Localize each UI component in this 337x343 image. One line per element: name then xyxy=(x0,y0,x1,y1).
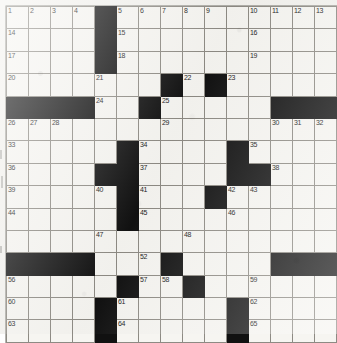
crossword-cell[interactable] xyxy=(249,208,271,230)
crossword-cell[interactable] xyxy=(205,320,227,342)
crossword-cell[interactable] xyxy=(227,275,249,297)
crossword-cell[interactable] xyxy=(271,29,293,51)
crossword-cell[interactable] xyxy=(293,186,315,208)
crossword-cell[interactable] xyxy=(293,298,315,320)
crossword-cell[interactable] xyxy=(249,74,271,96)
crossword-cell[interactable] xyxy=(51,29,73,51)
crossword-cell[interactable] xyxy=(73,141,95,163)
crossword-cell[interactable] xyxy=(205,275,227,297)
crossword-cell[interactable]: 52 xyxy=(139,253,161,275)
crossword-cell[interactable] xyxy=(29,74,51,96)
crossword-cell[interactable]: 26 xyxy=(7,118,29,140)
crossword-cell[interactable] xyxy=(183,118,205,140)
crossword-cell[interactable] xyxy=(73,163,95,185)
crossword-cell[interactable] xyxy=(73,29,95,51)
crossword-cell[interactable] xyxy=(51,74,73,96)
crossword-cell[interactable]: 22 xyxy=(183,74,205,96)
crossword-cell[interactable] xyxy=(29,298,51,320)
crossword-cell[interactable] xyxy=(51,298,73,320)
crossword-cell[interactable] xyxy=(73,186,95,208)
crossword-cell[interactable] xyxy=(161,141,183,163)
crossword-cell[interactable]: 63 xyxy=(7,320,29,342)
crossword-cell[interactable] xyxy=(73,118,95,140)
crossword-cell[interactable] xyxy=(7,230,29,252)
crossword-grid[interactable]: 1234567891011121314151617181920212223242… xyxy=(6,6,337,343)
crossword-cell[interactable]: 40 xyxy=(95,186,117,208)
crossword-cell[interactable] xyxy=(315,74,337,96)
crossword-cell[interactable]: 56 xyxy=(7,275,29,297)
crossword-cell[interactable] xyxy=(51,275,73,297)
crossword-cell[interactable] xyxy=(271,320,293,342)
crossword-cell[interactable] xyxy=(51,163,73,185)
crossword-cell[interactable]: 1 xyxy=(7,7,29,29)
crossword-cell[interactable] xyxy=(183,253,205,275)
crossword-cell[interactable] xyxy=(139,29,161,51)
crossword-cell[interactable] xyxy=(249,96,271,118)
crossword-cell[interactable] xyxy=(315,186,337,208)
crossword-cell[interactable]: 35 xyxy=(249,141,271,163)
crossword-cell[interactable] xyxy=(29,51,51,73)
crossword-cell[interactable] xyxy=(183,298,205,320)
crossword-cell[interactable] xyxy=(95,275,117,297)
crossword-cell[interactable]: 25 xyxy=(161,96,183,118)
crossword-cell[interactable] xyxy=(271,74,293,96)
crossword-cell[interactable] xyxy=(29,230,51,252)
crossword-cell[interactable] xyxy=(315,320,337,342)
crossword-cell[interactable]: 36 xyxy=(7,163,29,185)
crossword-cell[interactable] xyxy=(315,230,337,252)
crossword-cell[interactable] xyxy=(139,118,161,140)
crossword-cell[interactable]: 41 xyxy=(139,186,161,208)
crossword-cell[interactable] xyxy=(315,275,337,297)
crossword-cell[interactable] xyxy=(73,230,95,252)
crossword-cell[interactable] xyxy=(29,275,51,297)
crossword-cell[interactable] xyxy=(51,320,73,342)
crossword-cell[interactable] xyxy=(29,141,51,163)
crossword-cell[interactable]: 6 xyxy=(139,7,161,29)
crossword-cell[interactable] xyxy=(161,51,183,73)
crossword-cell[interactable] xyxy=(249,118,271,140)
crossword-cell[interactable] xyxy=(183,96,205,118)
crossword-cell[interactable]: 2 xyxy=(29,7,51,29)
crossword-cell[interactable] xyxy=(161,186,183,208)
crossword-cell[interactable]: 5 xyxy=(117,7,139,29)
crossword-cell[interactable] xyxy=(183,51,205,73)
crossword-cell[interactable] xyxy=(227,7,249,29)
crossword-cell[interactable] xyxy=(293,29,315,51)
crossword-cell[interactable] xyxy=(73,320,95,342)
crossword-cell[interactable]: 20 xyxy=(7,74,29,96)
crossword-cell[interactable]: 27 xyxy=(29,118,51,140)
crossword-cell[interactable] xyxy=(205,230,227,252)
crossword-cell[interactable] xyxy=(227,29,249,51)
crossword-cell[interactable] xyxy=(205,298,227,320)
crossword-cell[interactable] xyxy=(117,230,139,252)
crossword-cell[interactable]: 42 xyxy=(227,186,249,208)
crossword-cell[interactable] xyxy=(117,118,139,140)
crossword-cell[interactable]: 65 xyxy=(249,320,271,342)
crossword-cell[interactable] xyxy=(29,163,51,185)
crossword-cell[interactable] xyxy=(293,320,315,342)
crossword-cell[interactable] xyxy=(117,74,139,96)
crossword-cell[interactable] xyxy=(205,29,227,51)
crossword-cell[interactable] xyxy=(315,141,337,163)
crossword-cell[interactable]: 14 xyxy=(7,29,29,51)
crossword-cell[interactable] xyxy=(315,51,337,73)
crossword-cell[interactable] xyxy=(29,186,51,208)
crossword-cell[interactable] xyxy=(271,230,293,252)
crossword-cell[interactable] xyxy=(205,163,227,185)
crossword-cell[interactable] xyxy=(227,118,249,140)
crossword-cell[interactable] xyxy=(161,163,183,185)
crossword-cell[interactable] xyxy=(51,141,73,163)
crossword-cell[interactable]: 29 xyxy=(161,118,183,140)
crossword-cell[interactable] xyxy=(29,320,51,342)
crossword-cell[interactable] xyxy=(293,163,315,185)
crossword-cell[interactable]: 21 xyxy=(95,74,117,96)
crossword-cell[interactable] xyxy=(29,208,51,230)
crossword-cell[interactable] xyxy=(161,230,183,252)
crossword-cell[interactable]: 16 xyxy=(249,29,271,51)
crossword-cell[interactable]: 19 xyxy=(249,51,271,73)
crossword-cell[interactable] xyxy=(183,141,205,163)
crossword-cell[interactable] xyxy=(183,186,205,208)
crossword-cell[interactable]: 60 xyxy=(7,298,29,320)
crossword-cell[interactable]: 44 xyxy=(7,208,29,230)
crossword-cell[interactable] xyxy=(95,253,117,275)
